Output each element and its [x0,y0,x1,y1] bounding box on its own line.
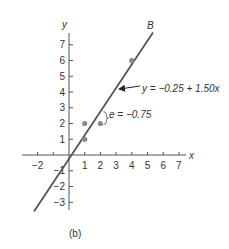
figure-caption: (b) [69,228,81,239]
y-tick-label: 3 [59,102,65,113]
y-tick-label: 1 [59,134,65,145]
y-tick-label: −3 [54,197,66,208]
y-tick-label: 6 [59,55,65,66]
data-point [129,58,134,63]
x-tick-label: 2 [98,160,104,171]
y-axis-label: y [61,19,68,30]
y-tick-label: 5 [59,71,65,82]
x-tick-label: 5 [145,160,151,171]
line-name-label: B [147,20,154,31]
x-tick-label: 1 [82,160,88,171]
x-tick-label: 3 [113,160,119,171]
x-tick-label: 6 [160,160,166,171]
data-point [82,137,87,142]
data-point [82,121,87,126]
scatter-chart: −21234567−3−2−11234567 y x B y = −0.25 +… [0,0,229,249]
fit-line-b [34,33,153,212]
x-tick-label: −2 [32,160,44,171]
equation-label: y = −0.25 + 1.50x [141,83,221,94]
x-axis-label: x [188,150,195,161]
residual-label: e = −0.75 [109,109,152,120]
x-tick-label: 4 [129,160,135,171]
y-tick-label: 4 [59,87,65,98]
y-tick-label: 7 [59,39,65,50]
y-tick-label: −2 [54,181,66,192]
regression-line [34,33,153,212]
y-tick-label: 2 [59,118,65,129]
arrow-icon [119,86,140,89]
axes [22,33,186,210]
data-point [98,121,103,126]
residual-brace [103,112,108,125]
x-tick-label: 7 [176,160,182,171]
